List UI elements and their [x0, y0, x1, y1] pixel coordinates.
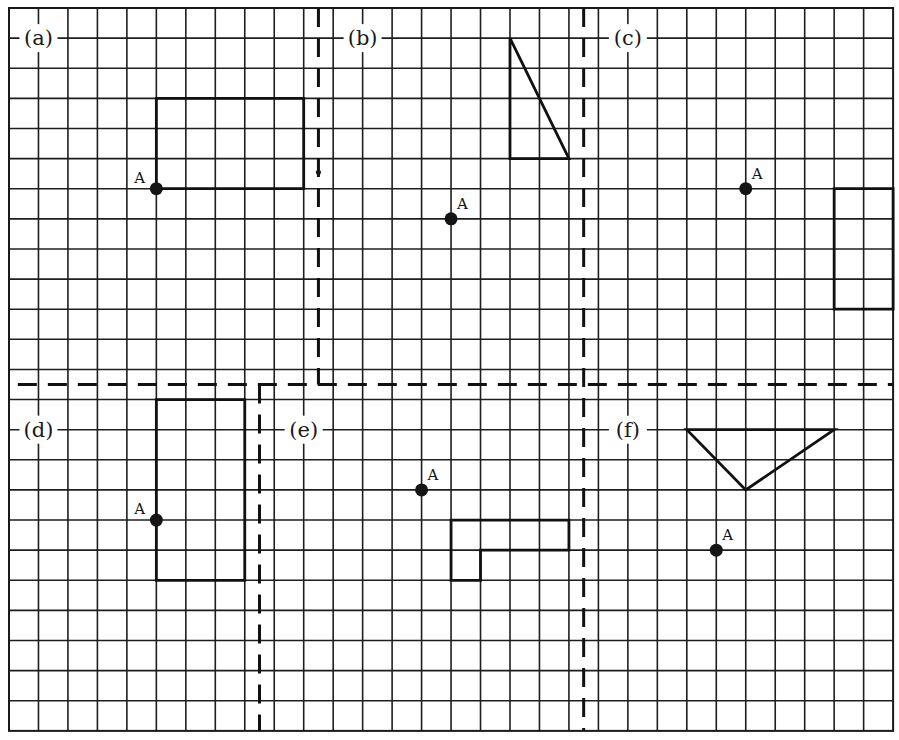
point-a-label: A — [133, 500, 145, 518]
point-a-label: A — [133, 169, 145, 187]
point-a-marker — [710, 544, 723, 557]
panel-e: (e)A — [285, 416, 569, 581]
panel-a: (a)A — [19, 24, 303, 195]
point-a-marker — [415, 483, 428, 496]
scan-artifact-dot — [316, 170, 321, 175]
point-a-label: A — [721, 526, 733, 544]
panel-b: (b)A — [344, 24, 569, 225]
panel-c: (c)A — [609, 24, 893, 309]
shape-a — [156, 98, 303, 188]
panel-label: (b) — [348, 26, 378, 50]
point-a-marker — [150, 182, 163, 195]
panel-label: (f) — [616, 418, 640, 442]
point-a-label: A — [426, 466, 438, 484]
point-a-marker — [150, 514, 163, 527]
panel-label: (c) — [614, 26, 642, 50]
panel-label: (a) — [24, 26, 53, 50]
worksheet-canvas: (a)A(b)A(c)A(d)A(e)A(f)A — [0, 0, 899, 740]
point-a-marker — [445, 212, 458, 225]
panel-label: (e) — [289, 418, 318, 442]
point-a-label: A — [751, 165, 763, 183]
point-a-marker — [739, 182, 752, 195]
grid — [9, 8, 893, 731]
panel-label: (d) — [24, 418, 54, 442]
panel-f: (f)A — [609, 416, 834, 557]
point-a-label: A — [456, 195, 468, 213]
panels: (a)A(b)A(c)A(d)A(e)A(f)A — [19, 24, 893, 580]
